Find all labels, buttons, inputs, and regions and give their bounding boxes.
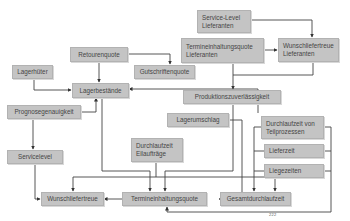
node-wunschliefertreue-lieferanten: Wunschliefertreue Lieferanten [278, 38, 339, 62]
node-lagerumschlag: Lagerumschlag [167, 113, 229, 127]
node-service-level-lieferanten: Service-Level Lieferanten [197, 10, 251, 33]
node-termineinhaltungsquote-lieferanten: Termineinhaltungsquote Lieferanten [181, 38, 264, 63]
node-termineinhaltungsquote: Termineinhaltungsquote [122, 192, 207, 206]
node-servicelevel: Servicelevel [7, 150, 63, 164]
node-wunschliefertreue: Wunschliefertreue [41, 192, 104, 206]
node-gutschriftenquote: Gutschriftenquote [134, 65, 195, 79]
node-durchlaufzeit-eilauftraege: Durchlaufzeit Eilaufträge [131, 138, 183, 162]
node-liegezeiten: Liegezeiten [264, 164, 324, 178]
diagram-canvas: Service-Level Lieferanten Termineinhaltu… [0, 0, 350, 221]
node-lagerbestaende: Lagerbestände [72, 83, 129, 98]
node-retourenquote: Retourenquote [70, 47, 128, 62]
node-gesamtdurchlaufzeit: Gesamtdurchlaufzeit [220, 192, 291, 206]
node-produktionszuverlaessigkeit: Produktionszuverlässigkeit [183, 90, 281, 104]
node-prognosegenauigkeit: Prognosegenauigkeit [7, 105, 81, 119]
node-lieferzeit: Lieferzeit [264, 144, 324, 158]
node-lagerhueter: Lagerhüter [12, 65, 53, 79]
node-durchlaufzeit-teilprozesse: Durchlaufzeit von Teilprozessen [261, 116, 324, 139]
footnote-mark: 222 [269, 212, 277, 217]
